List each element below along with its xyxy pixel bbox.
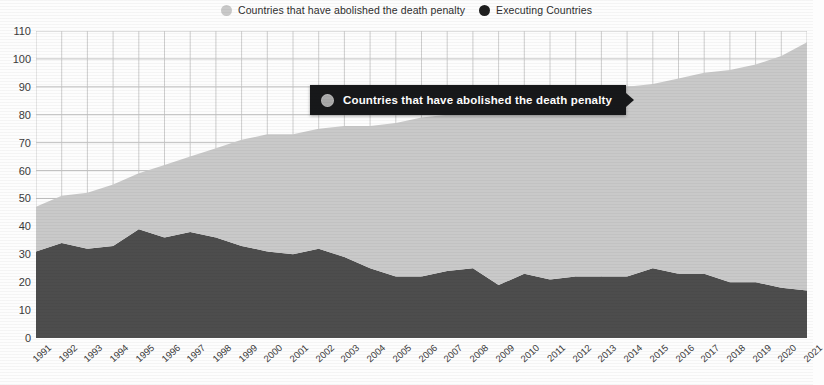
y-axis-tick-60: 60 [19,165,31,177]
y-axis-tick-10: 10 [19,304,31,316]
x-axis-tick-2002: 2002 [313,342,336,364]
x-axis-tick-2013: 2013 [596,342,619,364]
legend-label-executing: Executing Countries [496,4,592,16]
series-tooltip[interactable]: Countries that have abolished the death … [310,85,626,115]
x-axis-tick-2011: 2011 [545,342,568,364]
x-axis-tick-1997: 1997 [184,342,207,364]
y-axis-tick-20: 20 [19,276,31,288]
x-axis: 1991199219931994199519961997199819992000… [36,340,807,385]
x-axis-tick-2000: 2000 [262,342,285,364]
legend-marker-executing-icon [479,5,490,16]
tooltip-marker-icon [321,94,334,107]
legend-item-abolished[interactable]: Countries that have abolished the death … [221,4,465,16]
y-axis-tick-110: 110 [13,25,31,37]
tooltip-pointer-icon [626,93,634,107]
x-axis-tick-2015: 2015 [647,342,670,364]
x-axis-tick-1993: 1993 [82,342,105,364]
y-axis-tick-70: 70 [19,137,31,149]
y-axis-tick-0: 0 [25,332,31,344]
x-axis-tick-2016: 2016 [673,342,696,364]
x-axis-tick-1999: 1999 [236,342,259,364]
x-axis-tick-2014: 2014 [621,342,644,364]
plot-area [36,31,807,338]
x-axis-tick-2009: 2009 [493,342,516,364]
x-axis-tick-2017: 2017 [698,342,721,364]
x-axis-tick-2006: 2006 [416,342,439,364]
x-axis-tick-2010: 2010 [519,342,542,364]
x-axis-tick-2007: 2007 [441,342,464,364]
y-axis-tick-50: 50 [19,192,31,204]
y-axis-tick-40: 40 [19,220,31,232]
tooltip-label: Countries that have abolished the death … [343,94,612,106]
x-axis-tick-2018: 2018 [724,342,747,364]
x-axis-tick-2021: 2021 [801,342,824,364]
stacked-area-svg [36,31,807,338]
x-axis-tick-2005: 2005 [390,342,413,364]
legend-label-abolished: Countries that have abolished the death … [238,4,465,16]
y-axis-tick-100: 100 [13,53,31,65]
y-axis-tick-90: 90 [19,81,31,93]
x-axis-tick-1996: 1996 [159,342,182,364]
x-axis-tick-2001: 2001 [287,342,310,364]
x-axis-tick-1998: 1998 [210,342,233,364]
x-axis-tick-1995: 1995 [133,342,156,364]
legend-item-executing[interactable]: Executing Countries [479,4,592,16]
y-axis: 0102030405060708090100110 [0,0,36,338]
x-axis-tick-1994: 1994 [107,342,130,364]
x-axis-tick-2003: 2003 [339,342,362,364]
chart-legend: Countries that have abolished the death … [0,0,813,20]
x-axis-tick-2020: 2020 [776,342,799,364]
x-axis-tick-2008: 2008 [467,342,490,364]
x-axis-tick-2012: 2012 [570,342,593,364]
legend-marker-abolished-icon [221,5,232,16]
y-axis-tick-30: 30 [19,248,31,260]
x-axis-tick-2019: 2019 [750,342,773,364]
y-axis-tick-80: 80 [19,109,31,121]
x-axis-tick-2004: 2004 [364,342,387,364]
x-axis-tick-1992: 1992 [56,342,79,364]
x-axis-tick-1991: 1991 [30,342,53,364]
